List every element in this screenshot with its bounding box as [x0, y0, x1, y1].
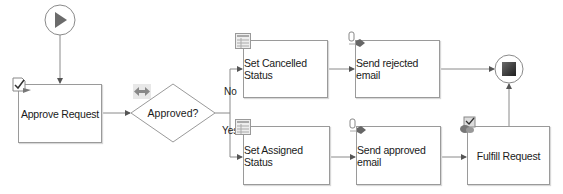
decision-arrows-icon	[133, 84, 151, 99]
email-script-icon	[349, 118, 367, 136]
fulfill-request-activity[interactable]: Fulfill Request	[467, 126, 550, 185]
approved-decision-label: Approved?	[131, 107, 215, 119]
send-approved-email-label: Send approved email	[357, 144, 440, 168]
list-table-icon	[235, 33, 251, 49]
task-approval-icon	[12, 77, 32, 95]
branch-label-no: No	[224, 86, 237, 97]
send-rejected-email-label: Send rejected email	[356, 57, 439, 81]
set-cancelled-status-activity[interactable]: Set Cancelled Status	[243, 40, 328, 98]
send-rejected-email-activity[interactable]: Send rejected email	[355, 40, 440, 98]
set-assigned-status-label: Set Assigned Status	[244, 144, 329, 168]
set-cancelled-status-label: Set Cancelled Status	[244, 57, 327, 81]
approve-request-label: Approve Request	[21, 108, 99, 120]
fulfill-request-label: Fulfill Request	[477, 150, 541, 162]
start-event[interactable]	[45, 5, 75, 35]
send-approved-email-activity[interactable]: Send approved email	[356, 126, 441, 185]
end-event[interactable]	[495, 55, 523, 83]
set-assigned-status-activity[interactable]: Set Assigned Status	[243, 126, 330, 185]
fulfillment-task-icon	[459, 116, 477, 134]
email-script-icon	[348, 31, 366, 49]
list-table-icon	[235, 119, 251, 135]
stop-icon	[502, 62, 516, 76]
